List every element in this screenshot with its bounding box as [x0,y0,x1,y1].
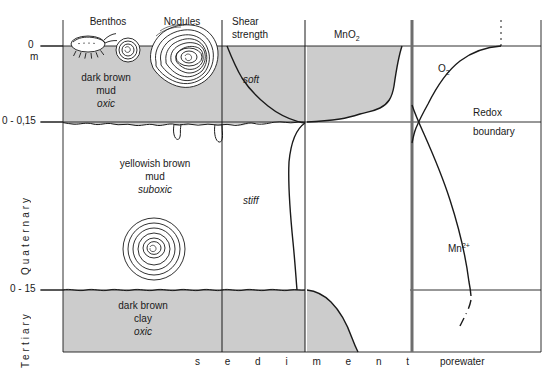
depth-axis-ticks [41,46,63,290]
mn2plus-superscript: 2+ [462,242,470,249]
oxic-suboxic-boundary [63,122,305,142]
shear-label-soft: soft [243,74,259,86]
column-header-nodules: Nodules [148,16,216,28]
sediment-profile-svg [0,0,547,377]
depth-tick-0: 0 [28,39,34,51]
layer-suboxic-name-1: yellowish brown [100,158,210,170]
nodule-buried-icon [123,218,185,280]
layer-suboxic-name-2: mud [100,171,210,183]
column-header-benthos: Benthos [74,16,142,28]
mno2-subscript: 2 [356,35,360,42]
layer-suboxic-redox: suboxic [100,184,210,196]
column-header-shear-line2: strength [232,29,268,41]
footer-label-porewater: porewater [440,356,484,368]
porewater-label-o2: O2 [438,63,450,79]
figure-canvas: Benthos Nodules Shear strength MnO2 0 m … [0,0,547,377]
nodule-small-icon [116,38,140,62]
age-axis-tertiary: Tertiary [20,300,31,368]
layer-oxic-name-1: dark brown [64,72,148,84]
column-header-shear-line1: Shear [232,16,259,28]
layer-clay-name-1: dark brown [88,300,198,312]
layer-oxic-name-2: mud [64,85,148,97]
redox-boundary-label-line1: Redox [473,107,502,119]
depth-tick-15: 0 - 15 [10,283,36,295]
shear-label-stiff: stiff [243,195,259,207]
age-axis-quaternary: Quaternary [20,60,31,275]
column-header-mno2: MnO2 [334,29,360,45]
footer-label-sediment: s e d i m e n t [195,356,420,368]
mn2plus-curve [412,105,471,330]
porewater-label-mn2plus: Mn2+ [448,240,470,255]
depth-unit-m: m [30,51,38,63]
layer-clay-name-2: clay [88,313,198,325]
o2-subscript: 2 [446,69,450,76]
layer-clay-redox: oxic [88,326,198,338]
redox-boundary-label-line2: boundary [473,126,515,138]
layer-oxic-redox: oxic [64,98,148,110]
